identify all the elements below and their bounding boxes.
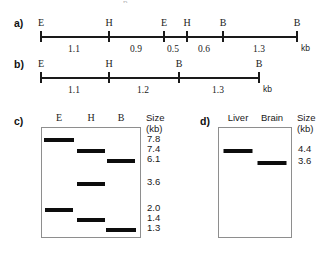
panel-a-distance-4: 0.6 [198,44,210,54]
panel-a-distance-2: 0.9 [130,44,142,54]
panel-c-band-b-6-1 [107,159,135,163]
top-cropped-text: p [123,0,128,3]
panel-c-band-h-1-4 [77,218,105,222]
panel-a-tick-6 [296,31,298,42]
panel-a-tick-1 [40,31,42,42]
panel-a-letter: a) [14,17,23,29]
panel-a-distance-1: 1.1 [68,44,80,54]
panel-a-site-label-4: H [183,17,190,28]
panel-b-letter: b) [14,58,24,70]
panel-c-ladder-3-6: 3.6 [147,177,160,187]
panel-c-lane-label-h: H [87,112,94,123]
panel-c-band-b-1-3 [106,228,136,232]
panel-c-band-h-7-4 [77,149,105,153]
panel-a-site-label-6: B [294,17,301,28]
panel-d-letter: d) [200,115,210,127]
panel-d-band-liver-4-4 [224,149,253,153]
panel-a-distance-5: 1.3 [253,44,265,54]
panel-c-band-e-2-0 [45,208,73,212]
panel-c-band-h-3-6 [77,182,105,186]
panel-b-site-label-4: B [256,58,263,69]
panel-a-tick-2 [108,31,110,42]
panel-b-tick-3 [178,72,180,83]
panel-c-letter: c) [14,115,23,127]
panel-b-distance-2: 1.2 [137,85,149,95]
panel-c-ladder-1-3: 1.3 [147,223,160,233]
panel-d-size-header: Size [297,112,315,123]
panel-d-band-brain-3-6 [258,161,287,165]
panel-a-tick-5 [222,31,224,42]
panel-b-tick-4 [258,72,260,83]
panel-d-gel-box [218,127,292,238]
panel-b-tick-1 [40,72,42,83]
panel-b-site-label-3: B [176,58,183,69]
panel-b-tick-2 [108,72,110,83]
panel-d-size-unit: (kb) [297,123,313,134]
panel-c-lane-label-e: E [56,112,62,123]
panel-c-band-e-7-8 [44,138,74,142]
panel-d-ladder-4-4: 4.4 [298,144,311,154]
panel-c-ladder-6-1: 6.1 [147,154,160,164]
panel-d-ladder-3-6: 3.6 [298,156,311,166]
panel-a-tick-4 [186,31,188,42]
panel-a-site-label-2: H [105,17,112,28]
panel-a-distance-3: 0.5 [167,44,179,54]
panel-d-lane-label-brain: Brain [261,112,283,123]
panel-b-distance-1: 1.1 [68,85,80,95]
panel-c-size-header: Size [146,112,164,123]
panel-a-unit-label: kb [301,43,310,53]
panel-a-tick-3 [163,31,165,42]
panel-b-distance-3: 1.3 [212,85,224,95]
panel-b-site-label-2: H [105,58,112,69]
panel-d-lane-label-liver: Liver [228,112,249,123]
panel-c-lane-label-b: B [118,112,125,123]
panel-a-site-label-1: E [38,17,44,28]
panel-b-axis-line [40,77,258,79]
figure-root: p a) E H E H B B 1.1 0.9 0.5 0.6 1.3 kb … [0,0,326,255]
panel-b-unit-label: kb [263,84,272,94]
panel-a-site-label-5: B [220,17,227,28]
panel-a-site-label-3: E [161,17,167,28]
panel-b-site-label-1: E [38,58,44,69]
panel-a-axis-line [40,36,296,38]
